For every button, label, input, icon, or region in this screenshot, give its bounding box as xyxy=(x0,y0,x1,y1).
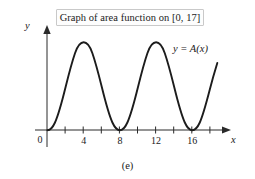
x-tick-label-8: 8 xyxy=(111,135,129,146)
curve-equation-label: y = A(x) xyxy=(173,43,208,54)
figure-caption: (e) xyxy=(0,160,255,171)
x-tick-label-0: 0 xyxy=(33,134,47,145)
area-function-curve-visible-true[interactable] xyxy=(48,42,218,130)
x-axis-label: x xyxy=(231,134,236,145)
y-axis-label: y xyxy=(25,20,30,31)
y-axis-arrowhead xyxy=(43,25,50,34)
x-tick-label-4: 4 xyxy=(75,135,93,146)
figure-container: Graph of area function on [0, 17] xyxy=(0,0,255,179)
x-tick-label-12: 12 xyxy=(147,135,165,146)
plot-area xyxy=(0,0,255,179)
x-tick-label-16: 16 xyxy=(183,135,201,146)
x-axis-arrowhead xyxy=(222,127,231,134)
